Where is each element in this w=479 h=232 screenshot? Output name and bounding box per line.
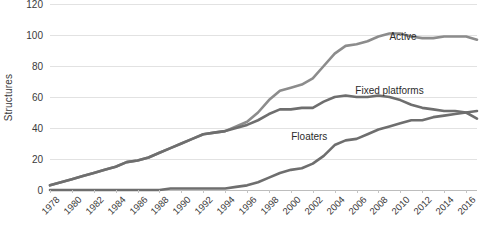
series-line-fixed-platforms	[50, 95, 477, 185]
x-axis-tick-label: 2004	[324, 194, 347, 217]
x-axis-tick-label: 2002	[302, 194, 325, 217]
x-axis-tick-mark	[313, 190, 314, 193]
x-axis-tick-mark	[116, 190, 117, 193]
y-axis-tick-labels: 020406080100120	[16, 4, 46, 190]
series-line-active	[50, 33, 477, 185]
x-axis-tick-mark	[335, 190, 336, 193]
x-axis-tick-label: 1982	[83, 194, 106, 217]
plot-area: ActiveFixed platformsFloaters	[50, 4, 477, 190]
x-axis-tick-label: 2012	[411, 194, 434, 217]
x-axis-tick-label: 2016	[455, 194, 478, 217]
x-axis-tick-mark	[72, 190, 73, 193]
line-chart: Structures 020406080100120 ActiveFixed p…	[0, 0, 479, 232]
x-axis-tick-label: 2006	[346, 194, 369, 217]
y-axis-tick-label: 120	[26, 0, 43, 10]
x-axis-tick-mark	[400, 190, 401, 193]
x-axis-tick-mark	[357, 190, 358, 193]
x-axis-tick-mark	[138, 190, 139, 193]
series-label-active: Active	[389, 31, 416, 42]
x-axis-tick-label: 1986	[127, 194, 150, 217]
x-axis-tick-mark	[247, 190, 248, 193]
x-axis-tick-label: 1990	[170, 194, 193, 217]
y-axis-tick-label: 60	[32, 92, 43, 103]
x-axis-tick-mark	[225, 190, 226, 193]
x-axis-tick-label: 1994	[214, 194, 237, 217]
x-axis-tick-mark	[466, 190, 467, 193]
x-axis-tick-label: 1978	[39, 194, 62, 217]
x-axis-tick-label: 1996	[236, 194, 259, 217]
x-axis-tick-label: 2010	[389, 194, 412, 217]
y-axis-tick-label: 40	[32, 123, 43, 134]
x-axis-tick-mark	[269, 190, 270, 193]
x-axis-tick-mark	[203, 190, 204, 193]
x-axis-tick-mark	[94, 190, 95, 193]
plot-wrapper: 020406080100120 ActiveFixed platformsFlo…	[16, 4, 479, 232]
x-axis-tick-label: 2014	[433, 194, 456, 217]
x-axis-tick-mark	[422, 190, 423, 193]
x-axis-tick-label: 1988	[149, 194, 172, 217]
x-axis-tick-mark	[444, 190, 445, 193]
x-axis-tick-mark	[181, 190, 182, 193]
y-axis-title: Structures	[4, 74, 15, 122]
x-axis-tick-mark	[291, 190, 292, 193]
y-axis-tick-label: 0	[37, 185, 43, 196]
x-axis-tick-label: 1980	[61, 194, 84, 217]
x-axis-tick-mark	[378, 190, 379, 193]
x-axis-tick-labels: 1978198019821984198619881990199219941996…	[50, 190, 477, 232]
x-axis-tick-label: 1984	[105, 194, 128, 217]
series-line-floaters	[50, 111, 477, 190]
y-axis-tick-label: 100	[26, 30, 43, 41]
series-label-fixed-platforms: Fixed platforms	[355, 85, 423, 96]
x-axis-tick-mark	[159, 190, 160, 193]
x-axis-tick-label: 1998	[258, 194, 281, 217]
series-label-floaters: Floaters	[291, 131, 327, 142]
y-axis-tick-label: 80	[32, 61, 43, 72]
x-axis-tick-label: 2008	[368, 194, 391, 217]
x-axis-tick-mark	[50, 190, 51, 193]
x-axis-tick-label: 2000	[280, 194, 303, 217]
y-axis-tick-label: 20	[32, 154, 43, 165]
x-axis-tick-label: 1992	[192, 194, 215, 217]
